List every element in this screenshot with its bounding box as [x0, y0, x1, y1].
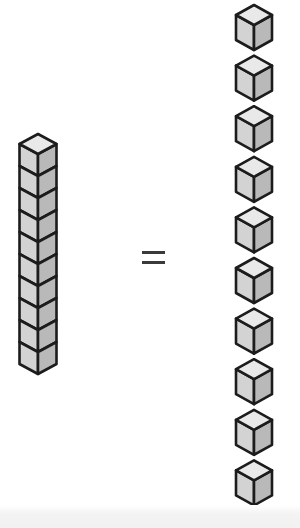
- unit-cube: [236, 106, 272, 151]
- equals-sign-bottom-bar: [142, 261, 165, 264]
- unit-cube: [236, 56, 272, 101]
- unit-cube: [236, 258, 272, 303]
- unit-cube: [236, 5, 272, 50]
- unit-cube: [236, 157, 272, 202]
- bottom-band: [0, 505, 300, 528]
- equals-sign-top-bar: [142, 251, 165, 254]
- diagram-canvas: =: [0, 0, 300, 528]
- ten-rod: [20, 134, 57, 374]
- unit-cubes-column: [236, 5, 272, 505]
- unit-cube: [236, 460, 272, 505]
- unit-cube: [236, 410, 272, 455]
- unit-cube: [236, 309, 272, 354]
- unit-cube: [236, 359, 272, 404]
- diagram-svg: [0, 0, 300, 528]
- unit-cube: [236, 207, 272, 252]
